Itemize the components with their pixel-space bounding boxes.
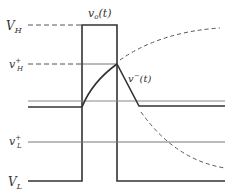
v-minus-label: v−(t) (128, 72, 151, 84)
vo-pulse (28, 25, 225, 181)
vh-plus-label: v+H (9, 57, 24, 73)
vl-plus-label: v+L (9, 134, 22, 150)
schmitt-trigger-timing-diagram: vo(t) VH v+H v−(t) v+L VL (0, 0, 235, 193)
vo-label: vo(t) (88, 7, 111, 21)
exp-dashed-down (141, 112, 225, 168)
vl-label: VL (8, 175, 22, 191)
exp-dashed-up (120, 28, 220, 60)
v-minus-curve-fall (117, 64, 225, 106)
vh-label: VH (6, 19, 23, 35)
